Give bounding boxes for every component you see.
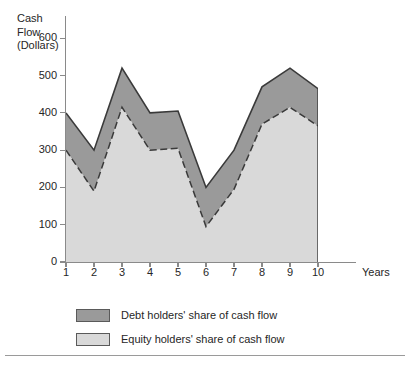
y-tick-label-300: 300 <box>27 143 57 155</box>
y-tick-label-600: 600 <box>27 31 57 43</box>
y-tick-500 <box>60 75 65 76</box>
legend-label-debt: Debt holders' share of cash flow <box>121 309 277 321</box>
legend-item-equity: Equity holders' share of cash flow <box>76 329 285 349</box>
bottom-divider <box>5 355 405 356</box>
legend-swatch-equity <box>76 333 110 346</box>
y-tick-label-0: 0 <box>27 255 57 267</box>
x-tick-label-4: 4 <box>139 266 161 278</box>
x-tick-label-1: 1 <box>55 266 77 278</box>
y-tick-label-500: 500 <box>27 69 57 81</box>
y-tick-400 <box>60 112 65 113</box>
legend-swatch-debt <box>76 309 110 322</box>
x-tick-label-10: 10 <box>307 266 329 278</box>
y-axis-title-line-1: Cash <box>17 12 59 26</box>
x-tick-label-3: 3 <box>111 266 133 278</box>
y-tick-100 <box>60 224 65 225</box>
x-tick-label-7: 7 <box>223 266 245 278</box>
plot-area <box>66 16 318 262</box>
x-tick-label-9: 9 <box>279 266 301 278</box>
x-axis-line <box>65 262 356 263</box>
cash-flow-chart-figure: Cash Flow (Dollars) 0100200300400500600 … <box>0 0 410 371</box>
legend-item-debt: Debt holders' share of cash flow <box>76 305 285 325</box>
x-tick-label-2: 2 <box>83 266 105 278</box>
area-chart-svg <box>66 16 318 262</box>
y-tick-label-100: 100 <box>27 218 57 230</box>
x-tick-label-5: 5 <box>167 266 189 278</box>
y-tick-300 <box>60 150 65 151</box>
y-tick-label-400: 400 <box>27 106 57 118</box>
x-tick-label-6: 6 <box>195 266 217 278</box>
y-tick-600 <box>60 38 65 39</box>
legend-label-equity: Equity holders' share of cash flow <box>121 333 285 345</box>
y-tick-label-200: 200 <box>27 180 57 192</box>
x-axis-label: Years <box>362 266 390 278</box>
y-tick-200 <box>60 187 65 188</box>
y-tick-0 <box>60 261 65 262</box>
chart-legend: Debt holders' share of cash flow Equity … <box>76 305 285 353</box>
x-tick-label-8: 8 <box>251 266 273 278</box>
